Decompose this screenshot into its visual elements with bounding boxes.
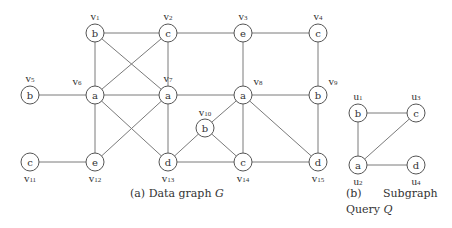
node-label: e	[240, 28, 246, 39]
data-graph-node-v11: cv11	[21, 153, 39, 184]
node-label: c	[27, 157, 33, 168]
node-label: b	[92, 28, 98, 39]
node-label: b	[27, 90, 33, 101]
node-name: v13	[162, 172, 175, 184]
data-graph-node-v14: cv14	[234, 153, 252, 184]
node-label: b	[315, 90, 321, 101]
node-label: a	[355, 160, 361, 171]
node-name: v11	[24, 172, 37, 184]
query-graph-edges	[358, 113, 416, 165]
node-label: b	[202, 123, 208, 134]
node-name: v9	[329, 75, 339, 87]
node-label: d	[165, 157, 172, 168]
query-graph-node-u1: bu1	[349, 90, 367, 122]
node-name: u2	[354, 175, 364, 187]
data-graph-node-v3: ev3	[234, 10, 252, 42]
graph-figure: bv1cv2ev3cv4bv5av6av7av8bv9bv10cv11ev12d…	[0, 0, 452, 228]
data-graph-node-v9: bv9	[309, 75, 338, 104]
node-label: c	[315, 28, 321, 39]
node-name: v1	[91, 10, 101, 22]
node-label: d	[315, 157, 322, 168]
node-name: v4	[314, 10, 324, 22]
query-graph-edge-u2-u3	[358, 113, 416, 165]
query-graph-node-u2: au2	[349, 156, 367, 187]
data-graph-node-v5: bv5	[21, 72, 39, 104]
data-graph-node-v12: ev12	[86, 153, 104, 184]
node-label: c	[240, 157, 246, 168]
query-graph: bu1au2cu3du4 (b)Subgraph Query Q	[346, 90, 438, 216]
query-caption-line1: (b)Subgraph	[346, 187, 438, 200]
data-graph-edge-v8-v15	[243, 95, 318, 162]
node-name: v7	[164, 72, 174, 84]
data-graph: bv1cv2ev3cv4bv5av6av7av8bv9bv10cv11ev12d…	[21, 10, 338, 200]
query-graph-node-u3: cu3	[407, 90, 425, 122]
data-graph-caption: (a) Data graph G	[130, 187, 224, 200]
query-caption-line2: Query Q	[346, 203, 393, 216]
node-name: v12	[89, 172, 102, 184]
node-name: v2	[164, 10, 174, 22]
data-graph-node-v8: av8	[234, 75, 263, 104]
node-name: u4	[412, 175, 422, 187]
node-name: v3	[239, 10, 249, 22]
node-label: d	[413, 160, 420, 171]
node-label: c	[413, 108, 419, 119]
node-label: b	[355, 108, 361, 119]
node-name: v14	[237, 172, 250, 184]
node-name: v10	[199, 106, 212, 118]
node-label: a	[165, 90, 171, 101]
query-graph-node-u4: du4	[407, 156, 425, 187]
data-graph-node-v4: cv4	[309, 10, 327, 42]
node-name: u1	[354, 90, 364, 102]
node-name: v8	[254, 75, 264, 87]
data-graph-node-v1: bv1	[86, 10, 104, 42]
node-name: v15	[312, 172, 325, 184]
node-label: c	[165, 28, 171, 39]
node-label: e	[92, 157, 98, 168]
node-label: a	[240, 90, 246, 101]
node-name: v5	[26, 72, 36, 84]
data-graph-node-v2: cv2	[159, 10, 177, 42]
data-graph-node-v7: av7	[159, 72, 177, 104]
data-graph-node-v6: av6	[73, 75, 105, 104]
data-graph-node-v13: dv13	[159, 153, 177, 184]
data-graph-nodes: bv1cv2ev3cv4bv5av6av7av8bv9bv10cv11ev12d…	[21, 10, 338, 184]
node-label: a	[92, 90, 98, 101]
node-name: v6	[73, 75, 83, 87]
data-graph-node-v15: dv15	[309, 153, 327, 184]
node-name: u3	[412, 90, 422, 102]
data-graph-node-v10: bv10	[196, 106, 214, 137]
